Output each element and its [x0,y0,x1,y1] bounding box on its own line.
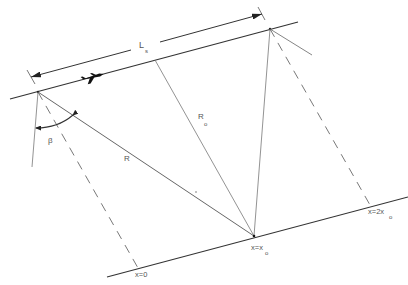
x-double-label: x=2x [368,207,384,216]
range-R0-label: R [198,112,204,121]
beam-edge-left [32,92,38,167]
radar-geometry-diagram: L s β R R o x=0 x=x o x=2x o [0,0,408,285]
x-double-subscript: o [389,214,393,220]
perpendicular-x0 [38,92,138,268]
dimension-arrow-left [31,50,131,77]
dimension-tick-right [258,7,265,20]
ground-line [107,197,408,277]
perpendicular-x2x0 [270,29,370,205]
range-R-label: R [124,154,130,163]
range-line-end [254,29,270,236]
airplane-icon [80,70,105,86]
x-center-label: x=x [251,243,263,252]
range-R0-subscript: o [204,121,208,127]
x-center-subscript: o [265,250,269,256]
synthetic-length-label: L [139,40,144,50]
range-line-R0 [155,60,254,236]
flight-path-line [10,22,298,99]
range-line-R [38,92,254,236]
dimension-arrow-right [160,14,262,42]
target-point [253,235,256,238]
range-tick [195,191,196,192]
x-zero-label: x=0 [135,270,147,279]
beam-edge-right [270,29,312,55]
synthetic-length-subscript: s [145,48,148,54]
angle-beta-label: β [48,136,53,145]
